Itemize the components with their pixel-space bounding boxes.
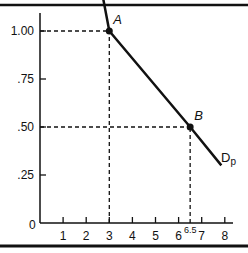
chart-svg: .25.50.751.00 1234566.578 AB Dp 0 bbox=[0, 0, 248, 253]
y-tick-label: .25 bbox=[17, 168, 34, 182]
x-tick-label: 1 bbox=[60, 229, 67, 243]
data-points: AB bbox=[106, 12, 203, 131]
x-tick-label: 4 bbox=[129, 229, 136, 243]
point-b-marker bbox=[187, 124, 194, 131]
demand-curve-chart: .25.50.751.00 1234566.578 AB Dp 0 bbox=[0, 0, 248, 253]
dashed-guides bbox=[40, 31, 190, 223]
point-a-marker bbox=[106, 28, 113, 35]
x-tick-label: 8 bbox=[221, 229, 228, 243]
y-tick-label: .75 bbox=[17, 72, 34, 86]
y-tick-label: .50 bbox=[17, 120, 34, 134]
x-tick-label: 6.5 bbox=[184, 225, 197, 235]
point-a-label: A bbox=[112, 12, 122, 27]
x-ticks: 1234566.578 bbox=[60, 217, 229, 243]
origin-label: 0 bbox=[29, 218, 36, 232]
x-tick-label: 3 bbox=[106, 229, 113, 243]
x-tick-label: 2 bbox=[83, 229, 90, 243]
x-tick-label: 5 bbox=[152, 229, 159, 243]
point-b-label: B bbox=[194, 108, 203, 123]
curve-label: Dp bbox=[221, 150, 236, 167]
y-tick-label: 1.00 bbox=[11, 24, 35, 38]
x-tick-label: 6 bbox=[175, 229, 182, 243]
curve-label-subscript: p bbox=[230, 156, 236, 167]
x-tick-label: 7 bbox=[198, 229, 205, 243]
